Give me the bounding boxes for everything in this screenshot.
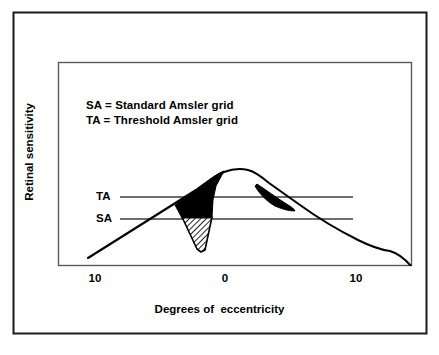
sa-line-label: SA	[96, 213, 112, 225]
y-axis-label: Retinal sensitivity	[24, 103, 36, 201]
figure-container: SA = Standard Amsler grid TA = Threshold…	[0, 0, 439, 355]
chart-canvas	[0, 0, 439, 355]
x-axis-label: Degrees of eccentricity	[0, 304, 439, 316]
x-tick-label-left: 10	[89, 272, 102, 284]
legend-entry-ta: TA = Threshold Amsler grid	[86, 115, 238, 127]
x-tick-label-center: 0	[222, 272, 228, 284]
ta-line-label: TA	[96, 191, 110, 203]
x-tick-label-right: 10	[350, 272, 363, 284]
retinal-sensitivity-curve	[88, 169, 411, 266]
legend-entry-sa: SA = Standard Amsler grid	[86, 100, 234, 112]
deep-scotoma-black-region	[175, 171, 224, 218]
deep-scotoma-hatched-region	[182, 217, 212, 252]
plot-area-border	[59, 63, 412, 266]
